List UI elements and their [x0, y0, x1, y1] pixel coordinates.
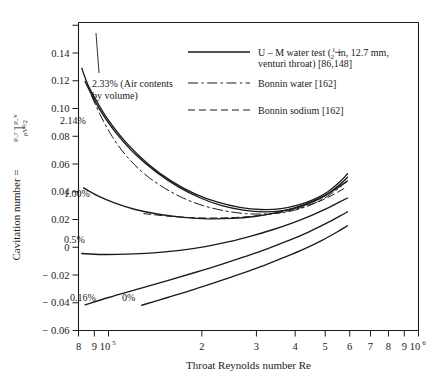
- x-tick-label: 9: [92, 341, 97, 352]
- chart-canvas: 0.140.120.100.080.060.040.020− 0.02− 0.0…: [0, 0, 445, 381]
- curve-annotation-label: 2.33% (Air contents: [92, 78, 173, 90]
- legend-label-um-water-test-line2: venturi throat) [86,148]: [258, 58, 352, 70]
- y-tick-label: − 0.04: [43, 297, 71, 308]
- y-tick-label: 0.10: [51, 103, 69, 114]
- x-tick-label: 9: [402, 341, 407, 352]
- curve-annotation-label: by volume): [92, 90, 138, 102]
- x-tick-label: 5: [323, 341, 328, 352]
- y-tick-label: − 0.02: [43, 270, 70, 281]
- y-axis-title-group: Cavitation number =: [10, 169, 22, 260]
- x-axis-title: Throat Reynolds number Re: [186, 359, 311, 371]
- x-tick-label: 4: [293, 341, 299, 352]
- x-tick-label-exponent: 6: [422, 339, 426, 347]
- x-tick-label: 10: [100, 341, 111, 352]
- legend-label-bonnin-sodium: Bonnin sodium [162]: [258, 105, 344, 116]
- curve-annotation-label: 0%: [122, 292, 135, 303]
- x-tick-label: 8: [76, 341, 81, 352]
- x-tick-label: 8: [386, 341, 391, 352]
- y-tick-label: 0.08: [51, 131, 69, 142]
- curve-annotation-label: 0.5%: [64, 234, 85, 245]
- legend-label-bonnin-water: Bonnin water [162]: [258, 78, 336, 89]
- x-tick-label: 7: [368, 341, 373, 352]
- y-tick-label: 0.14: [51, 48, 70, 59]
- y-tick-label: − 0.06: [43, 325, 70, 336]
- x-tick-label: 2: [199, 341, 204, 352]
- curve-annotation-label: 0.16%: [70, 292, 96, 303]
- x-tick-label-exponent: 5: [112, 339, 116, 347]
- x-tick-label: 6: [347, 341, 352, 352]
- y-tick-label: 0.06: [51, 159, 69, 170]
- y-axis-title: Cavitation number =: [10, 169, 22, 260]
- x-tick-label: 3: [254, 341, 259, 352]
- x-tick-label: 10: [410, 341, 421, 352]
- cavitation-chart-figure: 0.140.120.100.080.060.040.020− 0.02− 0.0…: [0, 0, 445, 381]
- curve-annotation-label: 2.14%: [60, 115, 86, 126]
- y-tick-label: 0.12: [51, 75, 69, 86]
- y-tick-label: 0.02: [51, 214, 69, 225]
- curve-annotation-label: 1.00%: [64, 188, 90, 199]
